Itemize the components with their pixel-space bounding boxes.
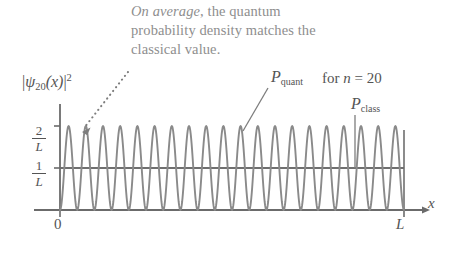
p-quant-leader-line [243, 88, 268, 131]
y-axis-label: |ψ20(x)|2 [22, 72, 72, 92]
p-class-symbol: P [351, 95, 361, 112]
p-class-label: Pclass [351, 95, 380, 114]
n-note-suffix: = 20 [351, 70, 382, 86]
callout-annotation: On average, the quantum probability dens… [131, 2, 336, 59]
psi-subscript: 20 [35, 81, 46, 92]
x-tick-label-origin: 0 [54, 216, 62, 233]
psi-symbol: ψ [25, 73, 35, 90]
psi-argument: (x) [46, 73, 64, 90]
p-class-subscript: class [361, 103, 380, 114]
y-tick-label-2-over-L: 2 L [28, 124, 50, 153]
p-quant-subscript: quant [281, 76, 303, 87]
probability-density-figure: On average, the quantum probability dens… [0, 0, 455, 260]
y-tick-label-1-over-L: 1 L [28, 159, 50, 188]
y-tick-1L-numerator: 1 [28, 159, 50, 173]
y-tick-1L-denominator: L [28, 174, 50, 188]
x-tick-label-L: L [396, 216, 404, 233]
p-quant-symbol: P [271, 68, 281, 85]
callout-emphasis: On average [131, 3, 200, 19]
p-quant-label: Pquant [271, 68, 303, 87]
y-tick-2L-numerator: 2 [28, 124, 50, 138]
n-value-note: for n = 20 [322, 70, 382, 87]
psi-exponent: 2 [67, 72, 72, 83]
n-note-prefix: for [322, 70, 343, 86]
callout-leader-dotted [84, 72, 128, 128]
n-note-variable: n [343, 70, 351, 86]
y-tick-2L-denominator: L [28, 139, 50, 153]
x-axis-label: x [428, 195, 435, 212]
